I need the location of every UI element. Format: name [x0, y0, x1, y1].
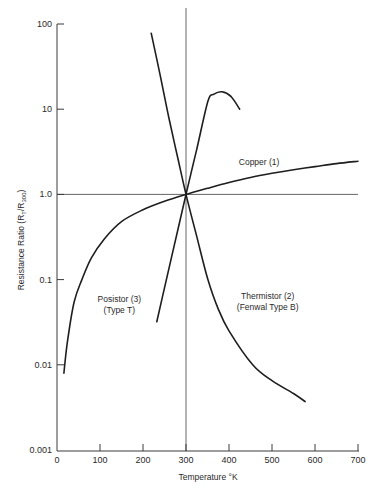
y-axis-title-end: ): [16, 190, 26, 193]
x-tick-label: 600: [307, 455, 322, 465]
y-tick-label: 100: [37, 19, 52, 29]
y-tick-label: 10: [42, 104, 52, 114]
x-tick-label: 200: [135, 455, 150, 465]
posistor-label: Posistor (3): [98, 294, 142, 304]
posistor-label-line2: (Type T): [104, 305, 136, 315]
y-tick-label: 0.001: [29, 445, 52, 455]
x-tick-label: 0: [54, 455, 59, 465]
y-axis-ticks: 0.0010.010.11.010100: [29, 19, 64, 455]
thermistor-label-line2: (Fenwal Type B): [237, 302, 299, 312]
thermistor-curve: [151, 33, 305, 401]
y-axis-title: Resistance Ratio (RT/R300): [16, 190, 27, 291]
x-axis-ticks: 0100200300400500600700: [54, 444, 365, 465]
resistance-ratio-chart: 0100200300400500600700 0.0010.010.11.010…: [0, 0, 381, 494]
data-series: [64, 33, 358, 401]
x-tick-label: 300: [178, 455, 193, 465]
y-tick-label: 0.1: [39, 275, 52, 285]
x-tick-label: 400: [221, 455, 236, 465]
posistor-curve: [157, 92, 240, 322]
reference-lines: [57, 8, 358, 451]
thermistor-label: Thermistor (2): [241, 291, 295, 301]
copper-label: Copper (1): [239, 157, 280, 167]
y-axis-title-main: Resistance Ratio (R: [16, 215, 26, 291]
copper-curve: [64, 161, 358, 373]
y-tick-label: 1.0: [39, 189, 52, 199]
x-tick-label: 100: [92, 455, 107, 465]
x-tick-label: 500: [264, 455, 279, 465]
x-tick-label: 700: [350, 455, 365, 465]
y-axis-title-mid: /R: [16, 203, 26, 212]
axes: [57, 24, 359, 451]
x-axis-title: Temperature °K: [178, 472, 237, 482]
series-annotations: Copper (1)Thermistor (2)(Fenwal Type B)P…: [98, 157, 299, 314]
y-tick-label: 0.01: [34, 360, 52, 370]
